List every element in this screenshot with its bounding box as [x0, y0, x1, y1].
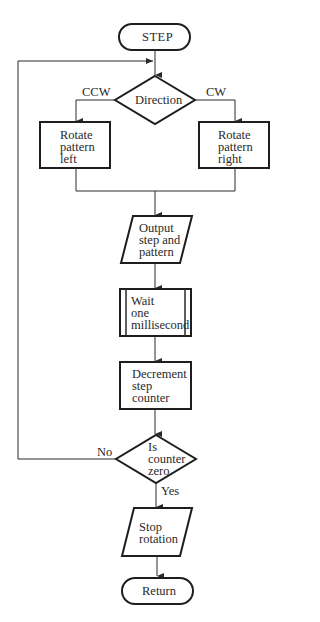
join-connector: [76, 168, 235, 191]
ccw-label: CCW: [82, 86, 110, 98]
yes-label: Yes: [161, 485, 179, 497]
cw-label: CW: [206, 86, 226, 98]
rotate-left-label: Rotate pattern left: [60, 129, 95, 165]
no-label: No: [97, 446, 112, 458]
connector-cw: [195, 100, 235, 121]
connector-ccw: [76, 100, 115, 121]
direction-label: Direction: [135, 94, 182, 106]
rotate-right-label: Rotate pattern right: [218, 129, 253, 165]
decrement-label: Decrement step counter: [132, 368, 187, 404]
counter-zero-label: Is counter zero: [148, 441, 185, 477]
return-label: Return: [142, 585, 176, 597]
wait-label: Wait one millisecond: [131, 295, 189, 331]
stop-label: Stop rotation: [139, 521, 178, 545]
output-label: Output step and pattern: [139, 222, 180, 258]
start-label: STEP: [142, 31, 173, 43]
